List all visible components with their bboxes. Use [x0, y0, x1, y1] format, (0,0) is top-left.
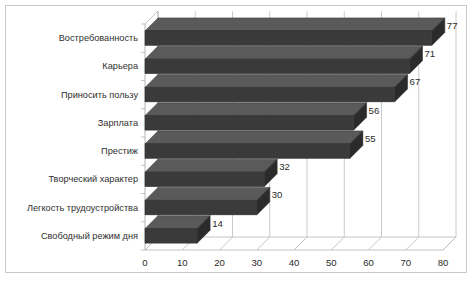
bar [145, 46, 422, 74]
bar [145, 131, 363, 159]
bar-value-label: 67 [410, 77, 421, 87]
x-axis-tick-label: 50 [320, 258, 342, 268]
bar [145, 18, 445, 46]
category-label: Престиж [6, 146, 138, 156]
x-axis-tick-label: 10 [171, 258, 193, 268]
bar-value-label: 32 [279, 162, 290, 172]
bar-value-label: 14 [212, 219, 223, 229]
bar-value-label: 77 [447, 21, 458, 31]
bar-value-label: 56 [369, 106, 380, 116]
bar-value-label: 55 [365, 134, 376, 144]
bar-value-label: 30 [272, 190, 283, 200]
bar [145, 216, 210, 244]
category-label: Легкость трудоустройства [6, 203, 138, 213]
category-label: Карьера [6, 61, 138, 71]
x-axis-tick-label: 70 [395, 258, 417, 268]
x-axis-tick-label: 30 [246, 258, 268, 268]
x-axis-tick-label: 0 [134, 258, 156, 268]
category-axis-labels: ВостребованностьКарьераПриносить пользуЗ… [8, 20, 138, 250]
category-label: Творческий характер [6, 174, 138, 184]
category-label: Зарплата [6, 118, 138, 128]
x-axis-tick-label: 20 [209, 258, 231, 268]
bar [145, 74, 408, 102]
bar [145, 187, 270, 215]
category-label: Приносить пользу [6, 90, 138, 100]
bar [145, 159, 277, 187]
x-axis-tick-label: 40 [283, 258, 305, 268]
x-axis-tick-label: 60 [358, 258, 380, 268]
category-label: Востребованность [6, 33, 138, 43]
x-axis-tick-label: 80 [432, 258, 454, 268]
bar-chart: ВостребованностьКарьераПриносить пользуЗ… [0, 0, 473, 286]
bar-value-label: 71 [424, 49, 435, 59]
category-label: Свободный режим дня [6, 231, 138, 241]
bar [145, 103, 367, 131]
